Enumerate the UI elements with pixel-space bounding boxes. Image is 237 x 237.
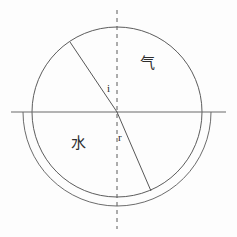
medium-label-air: 气 [140, 56, 155, 71]
angle-of-refraction-label: r [118, 132, 122, 143]
medium-label-water: 水 [71, 136, 86, 151]
incident-ray [70, 42, 117, 112]
diagram-canvas [0, 0, 237, 237]
angle-of-incidence-label: i [107, 83, 110, 94]
refraction-diagram: 气 水 i r [0, 0, 237, 237]
refracted-ray [117, 112, 151, 191]
outer-arc [23, 112, 211, 206]
